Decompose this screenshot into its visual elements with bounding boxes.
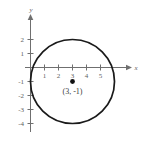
x-axis-label: x <box>133 64 138 72</box>
x-axis-arrow-icon <box>126 65 132 71</box>
y-axis-label: y <box>28 6 33 14</box>
y-tick-label-2: 2 <box>21 36 25 44</box>
x-tick-label-3: 3 <box>71 72 75 80</box>
y-tick-label-neg1: -1 <box>18 78 24 86</box>
circle-graph-figure: 1 2 3 4 5 2 1 -1 -2 -3 -4 x y (3, -1) <box>0 0 144 142</box>
x-tick-label-1: 1 <box>43 72 47 80</box>
x-tick-label-4: 4 <box>85 72 89 80</box>
y-tick-label-1: 1 <box>21 50 25 58</box>
x-tick-label-5: 5 <box>99 72 103 80</box>
y-axis-arrow-icon <box>28 14 34 20</box>
center-point-label: (3, -1) <box>63 87 83 96</box>
x-tick-label-2: 2 <box>57 72 61 80</box>
y-tick-label-neg3: -3 <box>18 106 24 114</box>
coordinate-plane-svg: 1 2 3 4 5 2 1 -1 -2 -3 -4 x y (3, -1) <box>0 0 144 142</box>
y-tick-label-neg4: -4 <box>18 120 24 128</box>
y-tick-label-neg2: -2 <box>18 92 24 100</box>
